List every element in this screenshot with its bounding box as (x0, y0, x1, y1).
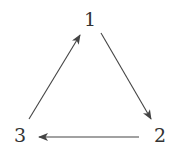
edge-3-to-1-arrow (29, 35, 80, 119)
node-3-label: 3 (14, 126, 26, 145)
edge-1-to-2-arrow (101, 33, 151, 119)
cycle-diagram: 1 2 3 (0, 0, 172, 154)
node-1-label: 1 (84, 10, 96, 29)
node-2-label: 2 (154, 126, 166, 145)
